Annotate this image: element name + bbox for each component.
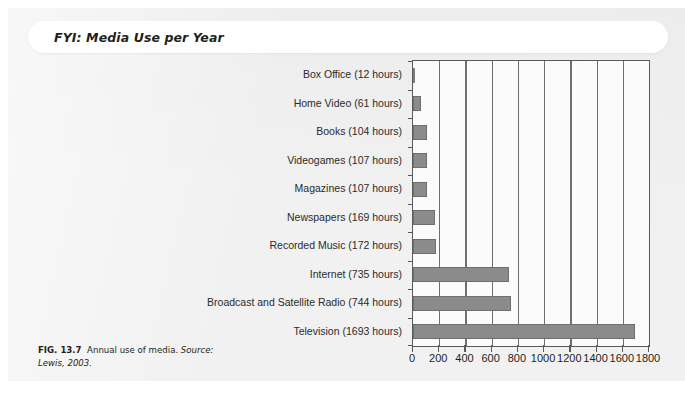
category-label: Box Office (12 hours) — [303, 60, 402, 89]
figure-caption: FIG. 13.7 Annual use of media. Source: L… — [38, 344, 223, 370]
bar — [413, 267, 509, 282]
category-label: Internet (735 hours) — [310, 260, 402, 289]
figure-number: FIG. 13.7 — [38, 345, 82, 355]
x-axis-tick — [491, 345, 492, 352]
y-axis-tick — [408, 318, 413, 319]
x-axis-tick-label: 1000 — [531, 352, 555, 364]
bar — [413, 182, 427, 197]
category-label: Videogames (107 hours) — [287, 146, 402, 175]
x-axis-tick-label: 1600 — [610, 352, 634, 364]
y-axis-tick — [408, 204, 413, 205]
gridline — [518, 61, 519, 346]
x-axis-tick — [648, 345, 649, 352]
y-axis-tick — [408, 175, 413, 176]
category-label: Magazines (107 hours) — [295, 174, 402, 203]
caption-source-value: Lewis, 2003. — [38, 358, 92, 368]
x-axis-tick-labels: 020040060080010001200140016001800 — [412, 352, 648, 368]
category-label: Newspapers (169 hours) — [287, 203, 402, 232]
category-axis-labels: Box Office (12 hours)Home Video (61 hour… — [190, 60, 408, 345]
gridline — [623, 61, 624, 346]
x-axis-tick — [517, 345, 518, 352]
x-axis-tick-label: 1200 — [557, 352, 581, 364]
caption-title: Annual use of media. — [87, 345, 178, 355]
plot-area — [412, 60, 650, 347]
x-axis-tick — [464, 345, 465, 352]
x-axis-tick-label: 200 — [429, 352, 447, 364]
category-label: Recorded Music (172 hours) — [270, 231, 402, 260]
bar — [413, 324, 635, 339]
figure-page: FYI: Media Use per Year Box Office (12 h… — [0, 0, 685, 401]
bar — [413, 68, 415, 83]
x-axis-tick-label: 400 — [455, 352, 473, 364]
caption-source-label: Source: — [181, 345, 214, 355]
y-axis-tick — [408, 147, 413, 148]
category-label: Home Video (61 hours) — [294, 89, 402, 118]
x-axis-tick-label: 0 — [409, 352, 415, 364]
x-axis-tick — [543, 345, 544, 352]
x-axis-tick — [622, 345, 623, 352]
x-axis-tick-label: 1800 — [636, 352, 660, 364]
x-axis-tick — [569, 345, 570, 352]
category-label: Broadcast and Satellite Radio (744 hours… — [207, 288, 402, 317]
y-axis-tick — [408, 61, 413, 62]
bar-chart: Box Office (12 hours)Home Video (61 hour… — [0, 0, 685, 401]
y-axis-tick — [408, 118, 413, 119]
bar — [413, 153, 427, 168]
y-axis-tick — [408, 232, 413, 233]
x-axis-tick-label: 1400 — [583, 352, 607, 364]
x-axis-tick — [596, 345, 597, 352]
x-axis-tick — [438, 345, 439, 352]
bar — [413, 125, 427, 140]
y-axis-tick — [408, 90, 413, 91]
y-axis-tick — [408, 261, 413, 262]
bar — [413, 96, 421, 111]
x-axis-tick-label: 600 — [481, 352, 499, 364]
bar — [413, 239, 436, 254]
bar — [413, 296, 511, 311]
x-axis-tick — [412, 345, 413, 352]
x-axis-tick-label: 800 — [508, 352, 526, 364]
gridline — [544, 61, 545, 346]
category-label: Books (104 hours) — [316, 117, 402, 146]
gridline — [570, 61, 571, 346]
y-axis-tick — [408, 289, 413, 290]
gridline — [597, 61, 598, 346]
bar — [413, 210, 435, 225]
category-label: Television (1693 hours) — [293, 317, 402, 346]
